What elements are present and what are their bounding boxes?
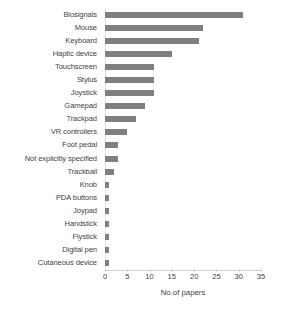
bar (105, 221, 109, 227)
category-label: Biosignals (63, 11, 97, 19)
bar-row (105, 113, 261, 126)
category-label-row: Biosignals (0, 8, 101, 21)
bar (105, 129, 127, 135)
category-label-row: Foot pedal (0, 139, 101, 152)
bar (105, 208, 109, 214)
bar-rows (105, 8, 261, 270)
category-label-row: Gamepad (0, 100, 101, 113)
category-label: Keyboard (65, 37, 97, 45)
category-label: Cutaneous device (38, 259, 97, 267)
bar-row (105, 178, 261, 191)
bar (105, 90, 154, 96)
x-tick-label: 30 (234, 272, 242, 282)
category-label-row: Cutaneous device (0, 257, 101, 270)
x-tick-label: 0 (103, 272, 107, 282)
category-label-row: Flystick (0, 231, 101, 244)
category-label: Knob (80, 181, 97, 189)
category-label: Stylus (77, 76, 97, 84)
x-tick-label: 25 (212, 272, 220, 282)
category-label-row: Mouse (0, 21, 101, 34)
bar-row (105, 126, 261, 139)
category-label-row: PDA buttons (0, 191, 101, 204)
x-tick-label: 20 (190, 272, 198, 282)
bar-row (105, 244, 261, 257)
bar-row (105, 191, 261, 204)
bar-row (105, 34, 261, 47)
category-label: Joypad (73, 207, 97, 215)
bar-row (105, 8, 261, 21)
category-label-row: Knob (0, 178, 101, 191)
category-label: Trackball (67, 168, 97, 176)
x-axis-line (105, 270, 261, 271)
bar-row (105, 204, 261, 217)
bar (105, 51, 172, 57)
category-label: Touchscreen (55, 63, 97, 71)
x-axis-title: No.of papers (105, 288, 261, 297)
x-tick-label: 35 (257, 272, 265, 282)
bar-row (105, 165, 261, 178)
bar (105, 182, 109, 188)
category-label-row: Digital pen (0, 244, 101, 257)
category-label-row: Joypad (0, 204, 101, 217)
category-label: Flystick (72, 233, 97, 241)
bar (105, 195, 109, 201)
category-label: Mouse (75, 24, 97, 32)
category-label-row: Trackball (0, 165, 101, 178)
bar-row (105, 60, 261, 73)
category-label-row: VR controllers (0, 126, 101, 139)
category-label: Joystick (71, 89, 97, 97)
category-axis-labels: BiosignalsMouseKeyboardHaptic deviceTouc… (0, 8, 101, 270)
category-label-row: Keyboard (0, 34, 101, 47)
bar (105, 169, 114, 175)
x-tick-label: 5 (125, 272, 129, 282)
category-label: Haptic device (53, 50, 97, 58)
bar-row (105, 152, 261, 165)
category-label: Gamepad (64, 102, 97, 110)
bar (105, 234, 109, 240)
bar (105, 64, 154, 70)
x-tick-label: 15 (168, 272, 176, 282)
bar (105, 103, 145, 109)
category-label-row: Not explicitly specified (0, 152, 101, 165)
category-label: VR controllers (51, 128, 97, 136)
category-label-row: Joystick (0, 87, 101, 100)
category-label-row: Handstick (0, 218, 101, 231)
category-label-row: Trackpad (0, 113, 101, 126)
category-label: PDA buttons (56, 194, 97, 202)
bar (105, 247, 109, 253)
bar (105, 12, 243, 18)
bar (105, 260, 109, 266)
bar-row (105, 47, 261, 60)
bar-row (105, 218, 261, 231)
bar-row (105, 100, 261, 113)
bar-row (105, 87, 261, 100)
category-label-row: Touchscreen (0, 60, 101, 73)
category-label: Digital pen (62, 246, 97, 254)
bar-row (105, 21, 261, 34)
bar (105, 142, 118, 148)
category-label: Trackpad (66, 115, 97, 123)
bar (105, 156, 118, 162)
bar-chart: BiosignalsMouseKeyboardHaptic deviceTouc… (0, 0, 286, 317)
bar (105, 77, 154, 83)
figure-caption (4, 305, 282, 315)
x-axis-ticks: 05101520253035 (105, 272, 261, 284)
bar-row (105, 73, 261, 86)
category-label: Not explicitly specified (25, 155, 97, 163)
bar-row (105, 231, 261, 244)
bar (105, 116, 136, 122)
bar-row (105, 139, 261, 152)
bar (105, 25, 203, 31)
x-tick-label: 10 (145, 272, 153, 282)
bar (105, 38, 199, 44)
category-label-row: Stylus (0, 73, 101, 86)
category-label: Handstick (65, 220, 97, 228)
category-label-row: Haptic device (0, 47, 101, 60)
category-label: Foot pedal (62, 141, 97, 149)
bar-row (105, 257, 261, 270)
plot-area (105, 8, 261, 270)
